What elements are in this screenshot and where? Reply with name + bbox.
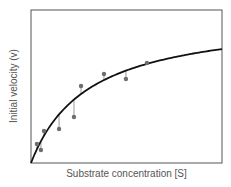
data-point xyxy=(42,129,46,133)
data-point xyxy=(79,84,83,88)
data-point xyxy=(35,142,39,146)
data-point xyxy=(57,127,61,131)
plot-frame xyxy=(31,10,222,163)
residual-lines xyxy=(37,63,147,150)
data-points xyxy=(35,61,149,152)
data-point xyxy=(72,115,76,119)
data-point xyxy=(124,77,128,81)
chart-plot-area xyxy=(0,0,231,187)
data-point xyxy=(39,148,43,152)
data-point xyxy=(145,61,149,65)
fit-curve xyxy=(31,49,222,163)
x-axis-label: Substrate concentration [S] xyxy=(31,168,222,179)
y-axis-label-text: Initial velocity (v) xyxy=(8,49,19,123)
data-point xyxy=(102,72,106,76)
